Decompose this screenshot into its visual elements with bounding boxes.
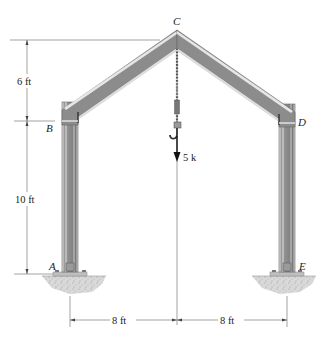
- chain-hook: [170, 48, 181, 139]
- label-A: A: [48, 260, 56, 272]
- label-B: B: [46, 122, 53, 134]
- rafter-CD: [177, 30, 295, 127]
- dim-roof-rise: 6 ft: [17, 76, 31, 87]
- label-E: E: [298, 260, 306, 272]
- load-arrow: [174, 136, 181, 162]
- support-A: [42, 270, 106, 294]
- column-AB: [62, 102, 78, 272]
- dim-left-span: 8 ft: [112, 315, 126, 326]
- support-E: [252, 270, 316, 294]
- column-DE: [279, 104, 295, 272]
- label-D: D: [297, 116, 306, 128]
- rafter-BC: [62, 30, 177, 125]
- dim-column-height: 10 ft: [15, 194, 35, 205]
- label-C: C: [173, 15, 181, 27]
- load-label: 5 k: [183, 152, 197, 163]
- dim-right-span: 8 ft: [220, 315, 234, 326]
- frame-diagram: 6 ft 10 ft 8 ft 8 ft: [0, 0, 326, 341]
